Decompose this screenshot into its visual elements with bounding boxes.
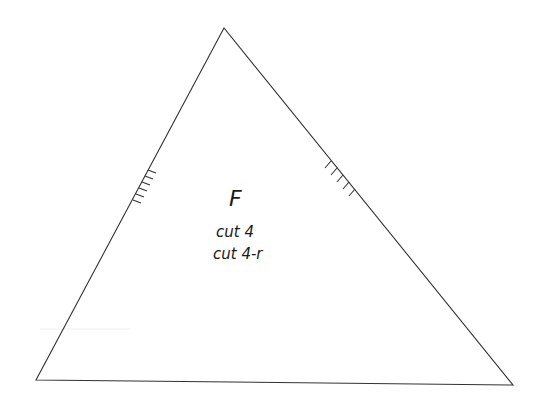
triangle-pattern-piece	[36, 28, 513, 385]
right-edge-notches	[325, 161, 355, 196]
pattern-canvas: F cut 4 cut 4-r	[0, 0, 544, 412]
cut-instruction-2: cut 4-r	[213, 245, 263, 263]
left-edge-notches	[133, 170, 156, 203]
piece-label: F	[229, 186, 242, 211]
cut-instruction-1: cut 4	[216, 223, 254, 241]
